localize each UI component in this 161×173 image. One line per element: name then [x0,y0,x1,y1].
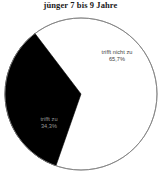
pie-label-trifft-nicht-zu-value: 65,7% [86,56,148,63]
pie-label-trifft-zu-value: 34,3% [25,123,73,130]
pie-chart-container: jünger 7 bis 9 Jahre trifft nicht zu 65,… [0,0,161,173]
pie-label-trifft-zu: trifft zu 34,3% [25,116,73,131]
pie-label-trifft-nicht-zu-name: trifft nicht zu [86,49,148,56]
pie-chart-graphic [0,0,161,173]
pie-label-trifft-nicht-zu: trifft nicht zu 65,7% [86,49,148,64]
pie-label-trifft-zu-name: trifft zu [25,116,73,123]
